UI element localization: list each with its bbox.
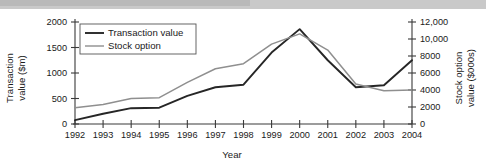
left-axis-title-line2: value ($m)	[16, 55, 27, 100]
right-tick-label: 12,000	[420, 17, 448, 27]
right-tick-label: 10,000	[420, 34, 448, 44]
x-tick-label: 1994	[121, 130, 141, 140]
right-axis-title-line2: value ($000s)	[465, 49, 476, 107]
right-tick-label: 0	[420, 119, 425, 129]
chart-figure: Transaction value ($m) Stock option valu…	[0, 0, 486, 163]
x-tick-label: 1993	[93, 130, 113, 140]
x-axis-title: Year	[222, 149, 242, 160]
x-tick-label: 2002	[346, 130, 366, 140]
x-tick-label: 2000	[289, 130, 309, 140]
x-tick-label: 1999	[261, 130, 281, 140]
right-axis-title: Stock option value ($000s)	[453, 49, 476, 107]
legend-label: Transaction value	[108, 27, 183, 38]
left-axis-title-line1: Transaction	[4, 53, 15, 103]
left-axis-ticks: 0500100015002000	[47, 17, 79, 129]
left-tick-label: 1500	[47, 43, 67, 53]
right-axis-title-line1: Stock option	[453, 52, 464, 105]
x-tick-label: 1997	[205, 130, 225, 140]
right-tick-label: 6000	[420, 68, 440, 78]
x-tick-label: 2003	[374, 130, 394, 140]
line-chart: Transaction value ($m) Stock option valu…	[0, 0, 486, 163]
left-tick-label: 1000	[47, 68, 67, 78]
left-axis-title: Transaction value ($m)	[4, 53, 27, 103]
legend-label: Stock option	[108, 40, 161, 51]
x-axis-ticks: 1992199319941995199619971998199920002001…	[65, 120, 422, 140]
right-axis-ticks: 0200040006000800010,00012,000	[408, 17, 448, 129]
right-tick-label: 8000	[420, 51, 440, 61]
left-tick-label: 0	[62, 119, 67, 129]
x-tick-label: 2004	[402, 130, 422, 140]
left-tick-label: 500	[52, 94, 67, 104]
x-tick-label: 1995	[149, 130, 169, 140]
x-tick-label: 2001	[318, 130, 338, 140]
right-tick-label: 2000	[420, 102, 440, 112]
right-tick-label: 4000	[420, 85, 440, 95]
left-tick-label: 2000	[47, 17, 67, 27]
x-tick-label: 1992	[65, 130, 85, 140]
chart-legend: Transaction valueStock option	[80, 24, 196, 54]
x-tick-label: 1998	[233, 130, 253, 140]
x-tick-label: 1996	[177, 130, 197, 140]
